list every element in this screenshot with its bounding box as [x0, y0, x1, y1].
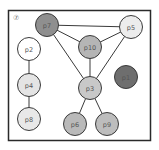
- corner-label: ⑦: [13, 14, 19, 22]
- node-p10: p10: [79, 36, 102, 59]
- node-label-p10: p10: [84, 44, 96, 52]
- node-label-p9: p9: [103, 121, 111, 129]
- node-label-p1: p1: [122, 74, 130, 82]
- node-p8: p8: [18, 108, 41, 131]
- node-p7: p7: [36, 14, 59, 37]
- node-p3: p3: [79, 77, 102, 100]
- node-label-p4: p4: [25, 82, 33, 90]
- node-p1: p1: [115, 66, 138, 89]
- node-p6: p6: [64, 113, 87, 136]
- node-label-p2: p2: [25, 46, 33, 54]
- node-p5: p5: [120, 16, 143, 39]
- node-label-p3: p3: [86, 85, 94, 93]
- node-label-p5: p5: [127, 24, 135, 32]
- node-p9: p9: [96, 113, 119, 136]
- graph-diagram: ⑦ p7p5p10p2p1p3p4p8p6p9: [0, 0, 159, 150]
- node-label-p8: p8: [25, 116, 33, 124]
- node-p2: p2: [18, 38, 41, 61]
- node-p4: p4: [18, 74, 41, 97]
- node-label-p6: p6: [71, 121, 79, 129]
- node-label-p7: p7: [43, 22, 51, 30]
